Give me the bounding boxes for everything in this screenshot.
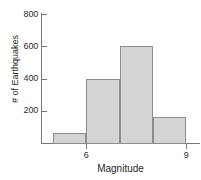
- y-axis-title: # of Earthquakes: [10, 21, 20, 117]
- histogram-bar-7-8: [120, 46, 153, 144]
- x-axis-label-6: 6: [76, 150, 96, 160]
- x-axis-title: Magnitude: [41, 163, 200, 174]
- earthquake-magnitude-histogram: 800 600 400 200 6 9 Magnitude # of Earth…: [0, 0, 201, 180]
- histogram-bar-8-9: [153, 117, 186, 144]
- x-axis-tick-6: [86, 144, 87, 149]
- histogram-bar-5-6: [53, 133, 86, 144]
- histogram-bar-6-7: [86, 79, 119, 145]
- x-axis-label-9: 9: [176, 150, 196, 160]
- x-axis-tick-9: [186, 144, 187, 149]
- histogram-bars: [0, 0, 201, 180]
